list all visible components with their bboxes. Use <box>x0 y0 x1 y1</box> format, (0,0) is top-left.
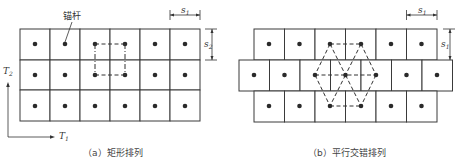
axis-t2-label: T2 <box>3 66 13 77</box>
figure-a-rectangular: 锚杆 s1 s2 T2 T1 （a）矩形排列 <box>3 5 217 158</box>
dim-s1-vertical-b: s1 <box>441 29 455 60</box>
dim-s1-b: s1 <box>407 5 438 20</box>
anchor-label: 锚杆 <box>63 10 81 21</box>
dim-s2-a: s2 <box>204 29 217 60</box>
svg-text:s1: s1 <box>181 5 189 16</box>
svg-text:s1: s1 <box>418 5 426 16</box>
anchor-layout-diagram: 锚杆 s1 s2 T2 T1 （a）矩形排列 <box>0 0 457 163</box>
figure-b-staggered: s1 s1 （b）平行交错排列 <box>239 5 455 158</box>
axis-t1-label: T1 <box>59 131 69 142</box>
svg-text:s2: s2 <box>204 39 213 50</box>
svg-text:s1: s1 <box>441 39 449 50</box>
dim-s1-a: s1 <box>170 5 200 20</box>
caption-b: （b）平行交错排列 <box>308 147 386 158</box>
caption-a: （a）矩形排列 <box>83 147 143 158</box>
